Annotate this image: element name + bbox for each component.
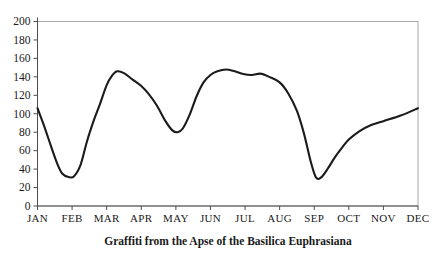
plot-frame xyxy=(38,22,419,207)
x-tick-label: DEC xyxy=(407,212,430,224)
x-tick-label: MAR xyxy=(94,212,120,224)
y-tick-label: 80 xyxy=(19,126,31,138)
x-tick-label: JUL xyxy=(235,212,255,224)
y-tick-label: 100 xyxy=(13,108,31,120)
y-tick-label: 180 xyxy=(13,34,31,46)
x-tick-label: AUG xyxy=(267,212,292,224)
line-chart: 020406080100120140160180200JANFEBMARAPRM… xyxy=(0,0,441,258)
x-tick-label: MAY xyxy=(163,212,189,224)
x-tick-label: JAN xyxy=(27,212,48,224)
x-tick-label: APR xyxy=(130,212,153,224)
chart-screenshot: 020406080100120140160180200JANFEBMARAPRM… xyxy=(0,0,441,258)
y-tick-label: 60 xyxy=(19,144,31,156)
y-tick-label: 40 xyxy=(19,163,31,175)
chart-caption: Graffiti from the Apse of the Basilica E… xyxy=(15,235,441,247)
y-tick-label: 140 xyxy=(13,71,31,83)
y-tick-label: 20 xyxy=(19,181,31,193)
x-tick-label: NOV xyxy=(371,212,396,224)
y-tick-label: 0 xyxy=(25,200,31,212)
data-line xyxy=(38,69,419,179)
x-tick-label: FEB xyxy=(62,212,83,224)
y-tick-label: 160 xyxy=(13,52,31,64)
x-tick-label: SEP xyxy=(304,212,324,224)
y-tick-label: 120 xyxy=(13,89,31,101)
x-tick-label: OCT xyxy=(337,212,360,224)
y-tick-label: 200 xyxy=(13,15,31,27)
x-tick-label: JUN xyxy=(200,212,221,224)
